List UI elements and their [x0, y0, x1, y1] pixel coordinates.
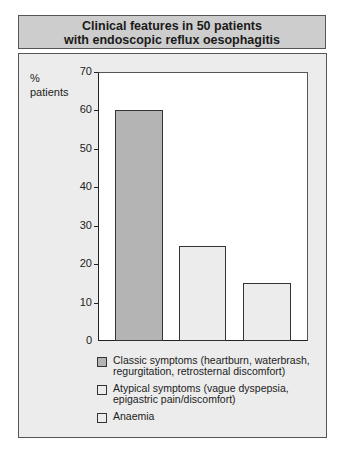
- bar-atypical-symptoms: [179, 246, 226, 341]
- title-line-1: Clinical features in 50 patients: [19, 19, 325, 33]
- legend-swatch: [97, 413, 107, 423]
- tick-mark: [94, 226, 98, 227]
- legend-label: Anaemia: [113, 410, 154, 422]
- y-tick-50: 50: [64, 142, 92, 154]
- y-tick-30: 30: [64, 219, 92, 231]
- chart-title: Clinical features in 50 patients with en…: [18, 15, 326, 49]
- legend-swatch: [97, 385, 107, 395]
- legend-item-atypical: Atypical symptoms (vague dyspepsia, epig…: [97, 383, 322, 405]
- legend-label: Classic symptoms (heartburn, waterbrash,…: [113, 354, 310, 377]
- legend-label: Atypical symptoms (vague dyspepsia, epig…: [113, 382, 289, 405]
- y-tick-20: 20: [64, 257, 92, 269]
- y-tick-60: 60: [64, 103, 92, 115]
- y-tick-40: 40: [64, 180, 92, 192]
- legend-swatch: [97, 357, 107, 367]
- y-axis-label-text: patients: [30, 85, 69, 99]
- tick-mark: [94, 264, 98, 265]
- tick-mark: [94, 149, 98, 150]
- tick-mark: [94, 72, 98, 73]
- legend-item-classic: Classic symptoms (heartburn, waterbrash,…: [97, 355, 322, 377]
- title-line-2: with endoscopic reflux oesophagitis: [19, 33, 325, 47]
- y-axis-label: % patients: [30, 71, 69, 99]
- tick-mark: [94, 303, 98, 304]
- y-axis-label-symbol: %: [30, 71, 69, 85]
- legend-item-anaemia: Anaemia: [97, 411, 322, 422]
- bar-anaemia: [243, 283, 291, 341]
- tick-mark: [94, 110, 98, 111]
- legend: Classic symptoms (heartburn, waterbrash,…: [97, 355, 322, 428]
- y-tick-70: 70: [64, 65, 92, 77]
- tick-mark: [94, 187, 98, 188]
- y-tick-10: 10: [64, 296, 92, 308]
- bar-classic-symptoms: [115, 110, 163, 341]
- y-tick-0: 0: [64, 334, 92, 346]
